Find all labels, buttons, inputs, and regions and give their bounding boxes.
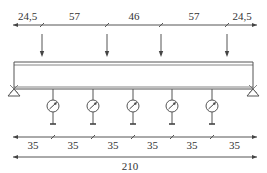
dimension-label: 35 — [187, 139, 199, 151]
dimension-label: 24,5 — [232, 10, 252, 22]
arrowhead-icon — [105, 51, 109, 57]
arrowhead-icon — [13, 23, 18, 27]
arrowhead-icon — [159, 51, 163, 57]
total-span-label: 210 — [122, 160, 139, 172]
arrowhead-icon — [252, 23, 257, 27]
dimension-label: 35 — [108, 139, 120, 151]
dimension-label: 35 — [229, 139, 241, 151]
dimension-label: 24,5 — [18, 10, 38, 22]
point-load — [40, 34, 44, 57]
beam — [14, 62, 253, 89]
dimension-label: 57 — [69, 10, 81, 22]
dial-gauge-icon — [166, 89, 178, 124]
arrowhead-icon — [252, 155, 257, 159]
dial-gauges — [47, 89, 218, 124]
beam-test-diagram: 24,557465724,5 353535353535 210 — [0, 0, 267, 173]
bottom-dimension-chain: 353535353535 — [13, 135, 257, 151]
arrowhead-icon — [13, 155, 18, 159]
total-span-dimension: 210 — [13, 155, 257, 172]
dimension-label: 35 — [68, 139, 80, 151]
dimension-label: 35 — [147, 139, 159, 151]
arrowhead-icon — [225, 51, 229, 57]
dimension-label: 57 — [189, 10, 201, 22]
dimension-label: 35 — [28, 139, 40, 151]
dial-gauge-icon — [87, 89, 99, 124]
arrowhead-icon — [252, 135, 257, 139]
top-dimension-chain: 24,557465724,5 — [13, 10, 257, 27]
point-load — [225, 34, 229, 57]
arrowhead-icon — [40, 51, 44, 57]
point-load — [105, 34, 109, 57]
arrowhead-icon — [13, 135, 18, 139]
point-loads — [40, 34, 229, 57]
dimension-label: 46 — [129, 10, 141, 22]
point-load — [159, 34, 163, 57]
dial-gauge-icon — [127, 89, 139, 124]
dial-gauge-icon — [206, 89, 218, 124]
diagram-canvas: 24,557465724,5 353535353535 210 — [0, 0, 267, 173]
dial-gauge-icon — [47, 89, 59, 124]
